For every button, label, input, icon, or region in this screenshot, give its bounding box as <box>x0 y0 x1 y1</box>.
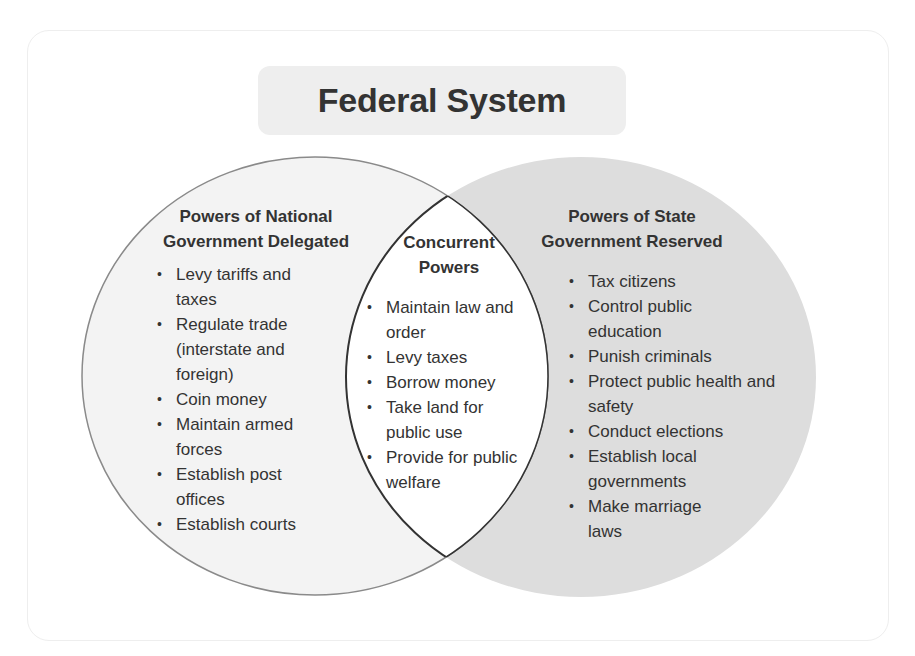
bullet-icon: • <box>569 494 574 519</box>
bullet-icon: • <box>367 445 372 470</box>
item-text: Levy taxes <box>386 348 467 367</box>
list-item: •Make marriage laws <box>562 494 810 544</box>
item-text: Borrow money <box>386 373 496 392</box>
bullet-icon: • <box>157 387 162 412</box>
bullet-icon: • <box>157 262 162 287</box>
item-text: Maintain armed forces <box>176 412 336 462</box>
item-text: Maintain law and order <box>386 295 516 345</box>
list-item: •Maintain law and order <box>360 295 530 345</box>
item-text: Provide for public welfare <box>386 445 518 495</box>
list-item: •Establish courts <box>150 512 382 537</box>
state-powers-heading: Powers of State Government Reserved <box>520 204 744 254</box>
bullet-icon: • <box>367 345 372 370</box>
list-item: •Punish criminals <box>562 344 810 369</box>
bullet-icon: • <box>569 294 574 319</box>
heading-line: Powers <box>368 255 530 280</box>
heading-line: Concurrent <box>368 230 530 255</box>
bullet-icon: • <box>569 344 574 369</box>
title-box: Federal System <box>258 66 626 135</box>
item-text: Protect public health and safety <box>588 369 788 419</box>
list-item: •Take land for public use <box>360 395 530 445</box>
concurrent-powers-heading: Concurrent Powers <box>368 230 530 280</box>
concurrent-powers-list: •Maintain law and order •Levy taxes •Bor… <box>360 295 530 495</box>
list-item: •Levy taxes <box>360 345 530 370</box>
list-item: •Coin money <box>150 387 382 412</box>
bullet-icon: • <box>569 444 574 469</box>
bullet-icon: • <box>367 295 372 320</box>
list-item: •Establish post offices <box>150 462 382 512</box>
national-powers-list: •Levy tariffs and taxes •Regulate trade … <box>150 262 382 537</box>
heading-line: Government Reserved <box>520 229 744 254</box>
heading-line: Government Delegated <box>130 229 382 254</box>
list-item: •Maintain armed forces <box>150 412 382 462</box>
list-item: •Control public education <box>562 294 810 344</box>
concurrent-powers-section: Concurrent Powers •Maintain law and orde… <box>360 230 530 495</box>
item-text: Levy tariffs and taxes <box>176 262 336 312</box>
item-text: Take land for public use <box>386 395 511 445</box>
list-item: •Protect public health and safety <box>562 369 810 419</box>
item-text: Control public education <box>588 294 728 344</box>
bullet-icon: • <box>157 512 162 537</box>
national-powers-heading: Powers of National Government Delegated <box>130 204 382 254</box>
item-text: Make marriage laws <box>588 494 728 544</box>
item-text: Establish courts <box>176 515 296 534</box>
item-text: Regulate trade (interstate and foreign) <box>176 312 326 387</box>
list-item: •Tax citizens <box>562 269 810 294</box>
national-powers-section: Powers of National Government Delegated … <box>150 204 382 537</box>
item-text: Conduct elections <box>588 422 723 441</box>
item-text: Coin money <box>176 390 267 409</box>
bullet-icon: • <box>569 419 574 444</box>
bullet-icon: • <box>157 462 162 487</box>
bullet-icon: • <box>569 369 574 394</box>
list-item: •Provide for public welfare <box>360 445 530 495</box>
item-text: Tax citizens <box>588 272 676 291</box>
bullet-icon: • <box>569 269 574 294</box>
state-powers-list: •Tax citizens •Control public education … <box>562 269 810 544</box>
item-text: Establish local governments <box>588 444 728 494</box>
list-item: •Borrow money <box>360 370 530 395</box>
bullet-icon: • <box>157 412 162 437</box>
list-item: •Levy tariffs and taxes <box>150 262 382 312</box>
heading-line: Powers of National <box>130 204 382 229</box>
state-powers-section: Powers of State Government Reserved •Tax… <box>520 204 810 544</box>
heading-line: Powers of State <box>520 204 744 229</box>
list-item: •Conduct elections <box>562 419 810 444</box>
item-text: Punish criminals <box>588 347 712 366</box>
bullet-icon: • <box>157 312 162 337</box>
list-item: •Establish local governments <box>562 444 810 494</box>
item-text: Establish post offices <box>176 462 321 512</box>
bullet-icon: • <box>367 395 372 420</box>
diagram-title: Federal System <box>318 81 567 120</box>
bullet-icon: • <box>367 370 372 395</box>
list-item: •Regulate trade (interstate and foreign) <box>150 312 382 387</box>
